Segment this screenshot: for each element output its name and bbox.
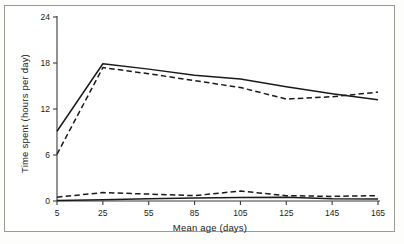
x-tick-label: 145 xyxy=(321,208,343,218)
data-series-lines xyxy=(57,64,378,201)
x-tick-label: 5 xyxy=(46,208,68,218)
series-lower-dashed xyxy=(57,191,378,197)
series-upper-dashed xyxy=(57,68,378,155)
y-tick-label: 0 xyxy=(30,196,50,206)
figure-container: Time spent (hours per day) Mean age (day… xyxy=(0,0,404,244)
x-tick-label: 125 xyxy=(275,208,297,218)
x-tick-label: 105 xyxy=(229,208,251,218)
axis-lines xyxy=(57,16,380,201)
x-tick-label: 165 xyxy=(367,208,389,218)
x-tick-label: 85 xyxy=(184,208,206,218)
y-axis-title: Time spent (hours per day) xyxy=(19,34,30,194)
series-upper-solid xyxy=(57,64,378,131)
y-tick-label: 6 xyxy=(30,150,50,160)
axis-tick-marks xyxy=(53,17,378,205)
y-tick-label: 24 xyxy=(30,12,50,22)
y-tick-label: 18 xyxy=(30,58,50,68)
x-tick-label: 55 xyxy=(138,208,160,218)
y-tick-label: 12 xyxy=(30,104,50,114)
x-tick-label: 25 xyxy=(92,208,114,218)
x-axis-title: Mean age (days) xyxy=(150,222,270,233)
series-lower-solid xyxy=(57,197,378,200)
